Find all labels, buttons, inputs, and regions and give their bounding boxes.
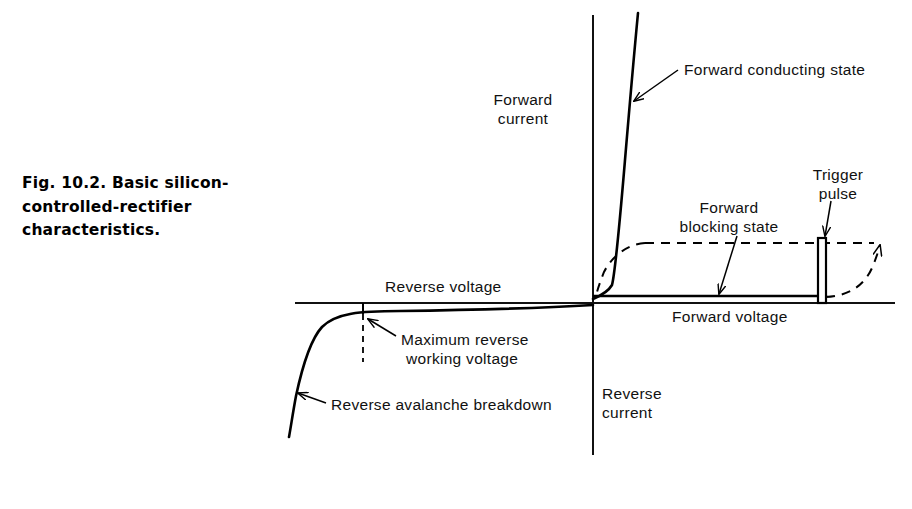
annotation-forward-blocking-state-line2: blocking state (680, 218, 779, 235)
leader-max-reverse-working-voltage (368, 319, 396, 336)
dashed-breakover-rise-right (826, 245, 880, 297)
axis-label-reverse-current-line2: current (602, 404, 653, 421)
annotation-reverse-avalanche-breakdown: Reverse avalanche breakdown (331, 396, 552, 413)
curve-reverse-leakage-avalanche (289, 305, 593, 437)
axis-label-forward-current-line2: current (498, 110, 549, 127)
annotation-trigger-pulse-line2: pulse (819, 185, 858, 202)
axis-label-reverse-current-line1: Reverse (602, 385, 662, 402)
leader-forward-blocking-state (719, 236, 737, 294)
annotation-max-reverse-working-voltage-line1: Maximum reverse (401, 331, 529, 348)
figure-page: Fig. 10.2. Basic silicon- controlled-rec… (0, 0, 912, 509)
scr-characteristic-curve-diagram: Reverse voltage Forward voltage Forward … (0, 0, 912, 509)
axis-label-forward-current-line1: Forward (494, 91, 553, 108)
axis-label-reverse-voltage: Reverse voltage (385, 278, 502, 295)
leader-trigger-pulse (825, 201, 831, 236)
trigger-pulse-bar (818, 238, 826, 303)
annotation-trigger-pulse-line1: Trigger (813, 166, 864, 183)
annotation-max-reverse-working-voltage-line2: working voltage (405, 350, 518, 367)
axis-label-forward-voltage: Forward voltage (672, 308, 788, 325)
leader-forward-conducting-state (634, 70, 678, 101)
annotation-forward-conducting-state: Forward conducting state (684, 61, 865, 78)
annotation-forward-blocking-state-line1: Forward (700, 199, 759, 216)
dashed-breakover-knee-left (596, 243, 645, 296)
leader-reverse-avalanche-breakdown (298, 393, 326, 403)
